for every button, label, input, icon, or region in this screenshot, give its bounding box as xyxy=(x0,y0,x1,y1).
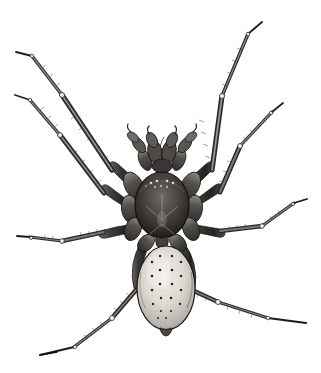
spider-illustration xyxy=(0,0,321,373)
clypeus xyxy=(152,159,172,173)
engraving-plate: · ········ ······· ·········· ····· ··· … xyxy=(0,0,321,373)
cephalothorax xyxy=(135,172,189,238)
